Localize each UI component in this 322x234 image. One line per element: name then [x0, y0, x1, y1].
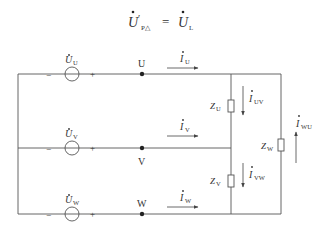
current-label: I: [295, 118, 300, 129]
node-label: V: [138, 156, 146, 167]
resistor-icon: [278, 139, 284, 151]
minus-sign: −: [46, 144, 51, 154]
source-u: U U − +: [46, 54, 95, 81]
phase-current-vw: I VW: [243, 163, 266, 187]
dot-accent-icon: [132, 11, 135, 14]
resistor-icon: [228, 175, 234, 187]
dot-accent-icon: [182, 11, 185, 14]
current-label: I: [179, 192, 184, 203]
equation-rhs-subscript: L: [189, 24, 193, 32]
equation-lhs-subscript: P△: [141, 24, 151, 32]
wires: [18, 74, 281, 214]
current-label: I: [179, 121, 184, 132]
source-label: U: [65, 128, 73, 139]
impedance-subscript: W: [267, 145, 274, 152]
current-label: I: [248, 93, 253, 104]
current-subscript: WU: [301, 123, 312, 130]
source-v: U V − +: [46, 128, 95, 155]
line-current-w: I W: [167, 190, 198, 207]
impedance-subscript: U: [216, 105, 221, 112]
plus-sign: +: [90, 209, 95, 219]
node-v: V: [138, 146, 146, 167]
equation-lhs-prime: ′: [138, 13, 140, 24]
delta-circuit-diagram: U ′ P△ = U L U U − +: [0, 0, 322, 234]
node-dot-icon: [140, 72, 144, 76]
source-subscript: W: [73, 199, 80, 206]
resistor-icon: [228, 100, 234, 112]
source-subscript: U: [73, 59, 78, 66]
node-dot-icon: [140, 146, 144, 150]
impedance-zu: Z U: [210, 100, 234, 112]
source-subscript: V: [73, 133, 78, 140]
node-w: W: [137, 198, 147, 216]
equation: U ′ P△ = U L: [128, 11, 193, 32]
node-u: U: [138, 58, 146, 76]
current-label: I: [179, 53, 184, 64]
current-subscript: VW: [254, 174, 266, 181]
source-label: U: [65, 54, 73, 65]
plus-sign: +: [90, 69, 95, 79]
plus-sign: +: [90, 143, 95, 153]
impedance-zv: Z V: [210, 175, 234, 187]
current-subscript: V: [185, 126, 190, 133]
phase-current-wu: I WU: [295, 115, 312, 163]
minus-sign: −: [46, 70, 51, 80]
source-w: U W − +: [46, 194, 95, 221]
equation-rhs-symbol: U: [178, 15, 189, 30]
node-label: U: [138, 58, 146, 69]
current-subscript: W: [185, 197, 192, 204]
line-current-u: I U: [167, 51, 198, 68]
impedance-zw: Z W: [261, 139, 284, 152]
current-label: I: [248, 169, 253, 180]
minus-sign: −: [46, 210, 51, 220]
node-label: W: [137, 198, 147, 209]
node-dot-icon: [140, 212, 144, 216]
impedance-subscript: V: [216, 180, 221, 187]
current-subscript: UV: [254, 98, 264, 105]
equation-equals: =: [162, 14, 169, 29]
current-subscript: U: [185, 58, 190, 65]
source-label: U: [65, 194, 73, 205]
phase-current-uv: I UV: [243, 86, 264, 115]
line-current-v: I V: [167, 119, 198, 136]
